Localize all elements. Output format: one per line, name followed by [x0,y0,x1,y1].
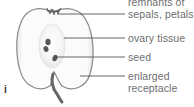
label-seed: seed [128,52,151,63]
part-marker: i [4,84,7,95]
label-receptacle-line1: enlarged [128,71,170,82]
ovary-tissue-region [39,24,65,68]
label-receptacle-line2: receptacle [128,83,177,94]
apple-section-diagram: i remnants of sepals, petals ovary tissu… [0,0,194,107]
label-ovary-tissue: ovary tissue [128,33,185,44]
seed-upper [45,39,50,45]
label-sepals-line1: remnants of [128,0,185,8]
label-sepals-line2: sepals, petals [128,9,194,20]
